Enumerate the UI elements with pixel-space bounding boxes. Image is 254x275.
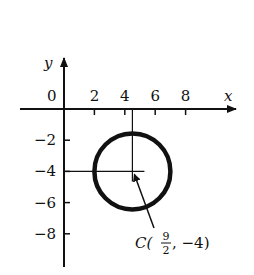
origin-label: 0 (47, 87, 57, 105)
y-tick-label: −2 (34, 131, 56, 149)
y-axis-label: y (43, 54, 53, 72)
center-label-suffix: , −4) (172, 234, 210, 252)
shapes (64, 109, 170, 228)
center-label: C( 9 2 , −4) (135, 230, 210, 257)
x-axis-label: x (224, 87, 233, 105)
svg-text:C(: C( (135, 234, 153, 252)
y-tick-label: −6 (34, 194, 56, 212)
center-x-denominator: 2 (163, 244, 170, 257)
x-tick-label: 2 (90, 87, 100, 105)
y-tick-label: −8 (34, 225, 56, 243)
center-pointer-arrow (134, 174, 154, 228)
center-label-prefix: C( (135, 234, 153, 252)
x-tick-label: 8 (181, 87, 191, 105)
center-x-numerator: 9 (163, 230, 170, 243)
x-tick-label: 6 (150, 87, 160, 105)
x-tick-label: 4 (120, 87, 130, 105)
coordinate-diagram: 2468−2−4−6−8 y x 0 C( 9 2 , −4) (0, 0, 254, 275)
y-tick-label: −4 (34, 162, 56, 180)
ticks: 2468−2−4−6−8 (34, 87, 190, 243)
